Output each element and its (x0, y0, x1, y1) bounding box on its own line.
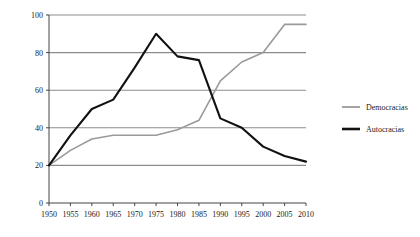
x-axis-tick-labels: 1950195519601965197019751980198519901995… (41, 210, 314, 219)
x-tick-label: 2010 (298, 210, 314, 219)
chart-canvas: 020406080100 195019551960196519701975198… (0, 0, 420, 237)
y-tick-label: 0 (39, 199, 43, 208)
legend-label-autocracias: Autocracias (366, 125, 404, 134)
x-tick-label: 1985 (191, 210, 207, 219)
y-tick-label: 40 (35, 124, 43, 133)
y-axis-tick-labels: 020406080100 (31, 11, 43, 208)
y-tick-label: 20 (35, 161, 43, 170)
x-tick-label: 1975 (148, 210, 164, 219)
x-tick-label: 1965 (105, 210, 121, 219)
x-tick-label: 1995 (234, 210, 250, 219)
axis-lines (49, 15, 306, 203)
line-chart: 020406080100 195019551960196519701975198… (0, 0, 420, 237)
legend-label-democracias: Democracias (366, 103, 408, 112)
chart-legend: DemocraciasAutocracias (342, 103, 408, 134)
x-tick-label: 1960 (84, 210, 100, 219)
data-series-group (49, 24, 306, 165)
y-tick-label: 80 (35, 49, 43, 58)
x-tick-label: 1980 (170, 210, 186, 219)
grid-lines (49, 15, 306, 165)
series-line-democracias (49, 24, 306, 165)
x-tick-label: 1950 (41, 210, 57, 219)
y-tick-label: 100 (31, 11, 43, 20)
x-tick-label: 1970 (127, 210, 143, 219)
x-tick-label: 2000 (255, 210, 271, 219)
x-tick-label: 1955 (62, 210, 78, 219)
y-tick-label: 60 (35, 86, 43, 95)
series-line-autocracias (49, 34, 306, 166)
x-tick-label: 1990 (212, 210, 228, 219)
x-tick-label: 2005 (277, 210, 293, 219)
